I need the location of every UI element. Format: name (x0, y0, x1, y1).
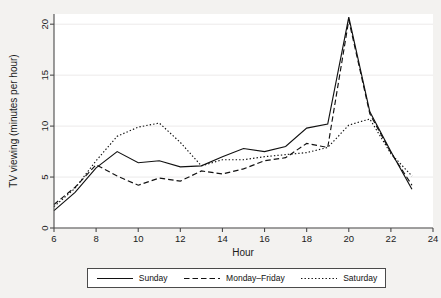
legend-swatch-solid (96, 274, 134, 283)
y-tick-label-15: 15 (39, 70, 50, 81)
x-tick-label-6: 6 (51, 233, 56, 244)
y-tick-label-20: 20 (39, 19, 50, 30)
y-tick-label-5: 5 (39, 174, 50, 179)
x-tick-label-16: 16 (259, 233, 270, 244)
x-tick-label-10: 10 (133, 233, 144, 244)
legend-entry-monday-friday: Monday–Friday (183, 273, 285, 283)
chart-legend: Sunday Monday–Friday Saturday (87, 268, 386, 288)
x-tick-label-14: 14 (217, 233, 228, 244)
x-axis-title: Hour (232, 247, 254, 258)
legend-entry-saturday: Saturday (300, 273, 377, 283)
x-tick-label-18: 18 (301, 233, 312, 244)
x-axis-ticks: 681012141618202224 (51, 228, 438, 244)
legend-label-saturday: Saturday (343, 273, 377, 283)
legend-entry-sunday: Sunday (96, 273, 168, 283)
series-line-saturday (54, 119, 412, 207)
tv-viewing-line-chart: 05101520 681012141618202224 Hour TV view… (0, 0, 441, 298)
x-tick-label-8: 8 (93, 233, 98, 244)
series-lines (54, 17, 412, 211)
legend-label-sunday: Sunday (139, 273, 168, 283)
series-line-sunday (54, 17, 412, 211)
legend-label-monday-friday: Monday–Friday (226, 273, 285, 283)
legend-swatch-dashed (183, 274, 221, 283)
axes (54, 14, 433, 228)
figure-canvas: 05101520 681012141618202224 Hour TV view… (0, 0, 441, 298)
y-tick-label-0: 0 (39, 225, 50, 230)
legend-swatch-dotted (300, 274, 338, 283)
y-tick-label-10: 10 (39, 121, 50, 132)
y-axis-title: TV viewing (minutes per hour) (8, 54, 19, 187)
y-axis-ticks: 05101520 (39, 19, 54, 231)
x-tick-label-12: 12 (175, 233, 186, 244)
x-tick-label-24: 24 (428, 233, 439, 244)
x-tick-label-22: 22 (386, 233, 397, 244)
x-tick-label-20: 20 (343, 233, 354, 244)
